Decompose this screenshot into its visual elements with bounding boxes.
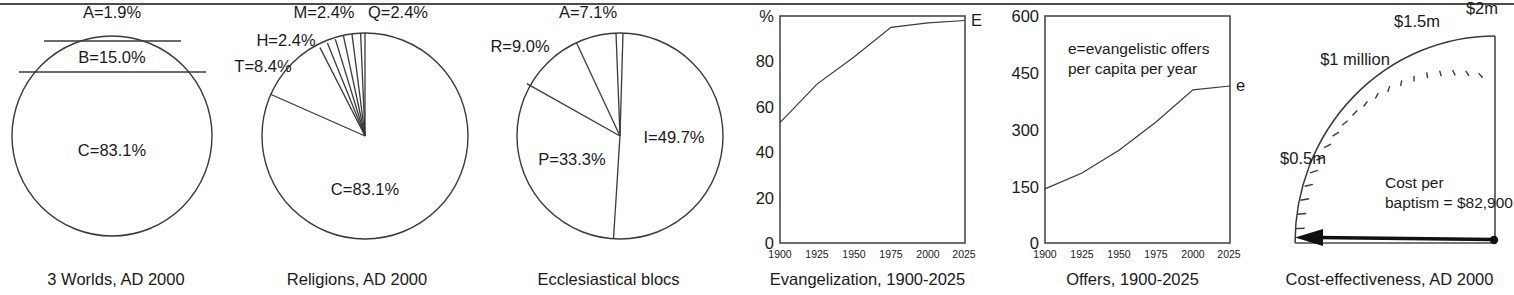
ytick-300: 300	[1011, 121, 1039, 139]
label-a: A=1.9%	[83, 3, 142, 21]
xtick-1975: 1975	[1144, 248, 1168, 260]
series-line-e	[1045, 86, 1230, 189]
panel-ecclesiastical-blocs: A=7.1% R=9.0% P=33.3% I=49.7% Ecclesiast…	[482, 0, 735, 295]
ytick-40: 40	[756, 143, 774, 161]
label-i: I=49.7%	[643, 128, 704, 146]
label-q: Q=2.4%	[368, 3, 428, 21]
gauge-tick-label-05m: $0.5m	[1280, 149, 1326, 167]
xtick-1900: 1900	[1033, 248, 1057, 260]
panel-religions: M=2.4% Q=2.4% H=2.4% T=8.4% C=83.1% Reli…	[232, 0, 482, 295]
label-t: T=8.4%	[234, 57, 292, 75]
series-end-label-e: e	[1236, 76, 1245, 94]
religions-pie: M=2.4% Q=2.4% H=2.4% T=8.4% C=83.1%	[232, 0, 482, 262]
gauge-pivot-dot	[1490, 236, 1498, 244]
caption-evangelization: Evangelization, 1900-2025	[735, 270, 1000, 289]
ytick-20: 20	[756, 189, 774, 207]
xtick-1925: 1925	[805, 248, 829, 260]
cost-effectiveness-gauge: $0.5m $1 million $1.5m $2m Cost per bapt…	[1265, 0, 1514, 262]
gauge-tick-label-15m: $1.5m	[1394, 12, 1440, 30]
panel-cost-effectiveness: $0.5m $1 million $1.5m $2m Cost per bapt…	[1265, 0, 1514, 295]
series-end-label-e: E	[971, 11, 982, 29]
xtick-2025: 2025	[952, 248, 976, 260]
gauge-note-line-2: baptism = $82,900	[1385, 194, 1513, 211]
label-c: C=83.1%	[78, 141, 147, 159]
caption-three-worlds: 3 Worlds, AD 2000	[0, 270, 232, 289]
label-h: H=2.4%	[256, 31, 315, 49]
xtick-2025: 2025	[1217, 248, 1241, 260]
ecclesiastical-blocs-pie: A=7.1% R=9.0% P=33.3% I=49.7%	[482, 0, 735, 262]
xtick-1950: 1950	[1107, 248, 1131, 260]
gauge-needle	[1317, 238, 1493, 240]
xtick-2000: 2000	[916, 248, 940, 260]
caption-ecclesiastical-blocs: Ecclesiastical blocs	[482, 270, 735, 289]
caption-religions: Religions, AD 2000	[232, 270, 482, 289]
xtick-1925: 1925	[1070, 248, 1094, 260]
note-line-1: e=evangelistic offers	[1068, 40, 1210, 57]
label-b: B=15.0%	[78, 48, 146, 66]
three-worlds-diagram: A=1.9% B=15.0% C=83.1%	[0, 0, 232, 262]
panel-evangelization: % 80 60 40 20 0 1900 1925 1950 1975 2000…	[735, 0, 1000, 295]
ytick-450: 450	[1011, 64, 1039, 82]
ytick-80: 80	[756, 52, 774, 70]
evangelization-linechart: % 80 60 40 20 0 1900 1925 1950 1975 2000…	[735, 0, 1000, 262]
caption-cost-effectiveness: Cost-effectiveness, AD 2000	[1265, 270, 1514, 289]
three-worlds-circle	[12, 36, 212, 236]
xtick-1975: 1975	[879, 248, 903, 260]
series-line-e	[780, 21, 965, 123]
label-r: R=9.0%	[490, 37, 549, 55]
xtick-1950: 1950	[842, 248, 866, 260]
label-c: C=83.1%	[331, 180, 400, 198]
label-m: M=2.4%	[294, 3, 355, 21]
plot-frame	[780, 16, 965, 243]
ytick-60: 60	[756, 98, 774, 116]
panel-three-worlds: A=1.9% B=15.0% C=83.1% 3 Worlds, AD 2000	[0, 0, 232, 295]
panel-offers: 600 450 300 150 0 1900 1925 1950 1975 20…	[1000, 0, 1265, 295]
gauge-note-line-1: Cost per	[1385, 174, 1444, 191]
gauge-tick-label-1m: $1 million	[1320, 50, 1390, 68]
ytick-600: 600	[1011, 7, 1039, 25]
label-a: A=7.1%	[559, 3, 618, 21]
xtick-2000: 2000	[1181, 248, 1205, 260]
label-p: P=33.3%	[538, 150, 606, 168]
ytick-150: 150	[1011, 178, 1039, 196]
caption-offers: Offers, 1900-2025	[1000, 270, 1265, 289]
gauge-tick-label-2m: $2m	[1466, 0, 1498, 17]
xtick-1900: 1900	[768, 248, 792, 260]
offers-linechart: 600 450 300 150 0 1900 1925 1950 1975 20…	[1000, 0, 1265, 262]
figure-root: A=1.9% B=15.0% C=83.1% 3 Worlds, AD 2000…	[0, 0, 1514, 295]
note-line-2: per capita per year	[1068, 60, 1197, 77]
ytick-100: %	[759, 7, 774, 25]
